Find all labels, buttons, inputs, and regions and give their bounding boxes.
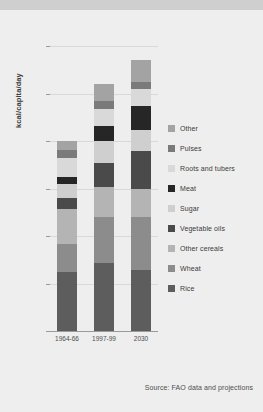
bar-segment-meat — [94, 126, 114, 141]
bar-segment-meat — [131, 106, 151, 130]
legend-item-label: Wheat — [180, 265, 201, 272]
y-tick-mark — [46, 46, 50, 47]
legend-item-label: Roots and tubers — [180, 165, 235, 172]
chart-legend: OtherPulsesRoots and tubersMeatSugarVege… — [168, 118, 260, 298]
bar-segment-other — [131, 60, 151, 82]
bar-segment-wheat — [131, 217, 151, 270]
legend-swatch-icon — [168, 165, 175, 172]
chart-figure: kcal/capita/day 05001 0001 5002 0002 500… — [0, 10, 263, 412]
legend-swatch-icon — [168, 145, 175, 152]
bar-segment-wheat — [57, 244, 77, 273]
legend-swatch-icon — [168, 245, 175, 252]
legend-item-meat[interactable]: Meat — [168, 178, 260, 198]
bar-2030 — [131, 60, 151, 331]
bar-segment-roots-and-tubers — [94, 109, 114, 126]
bar-segment-pulses — [131, 82, 151, 89]
bar-segment-other-cereals — [94, 187, 114, 217]
plot-area: 05001 0001 5002 0002 5003 0001964-661997… — [50, 46, 158, 331]
bar-segment-pulses — [94, 101, 114, 109]
bar-segment-roots-and-tubers — [57, 158, 77, 177]
legend-item-label: Sugar — [180, 205, 199, 212]
legend-item-rice[interactable]: Rice — [168, 278, 260, 298]
y-tick-mark — [46, 236, 50, 237]
y-tick-mark — [46, 189, 50, 190]
legend-item-vegetable-oils[interactable]: Vegetable oils — [168, 218, 260, 238]
bar-1964-66 — [57, 141, 77, 331]
bar-segment-roots-and-tubers — [131, 89, 151, 106]
bar-segment-sugar — [131, 130, 151, 152]
bar-segment-vegetable-oils — [57, 198, 77, 209]
bar-segment-rice — [57, 272, 77, 331]
legend-item-label: Meat — [180, 185, 196, 192]
gridline — [50, 46, 158, 47]
bar-segment-wheat — [94, 217, 114, 263]
axis-baseline — [50, 331, 158, 332]
y-tick-mark — [46, 284, 50, 285]
bar-segment-rice — [94, 263, 114, 331]
legend-swatch-icon — [168, 205, 175, 212]
bar-segment-other — [57, 141, 77, 150]
bar-segment-other-cereals — [57, 209, 77, 243]
y-tick-mark — [46, 141, 50, 142]
y-tick-mark — [46, 94, 50, 95]
legend-item-label: Other cereals — [180, 245, 223, 252]
legend-swatch-icon — [168, 125, 175, 132]
bar-1997-99 — [94, 84, 114, 331]
bar-segment-other — [94, 84, 114, 101]
bar-segment-other-cereals — [131, 189, 151, 217]
legend-item-label: Rice — [180, 285, 194, 292]
legend-swatch-icon — [168, 285, 175, 292]
legend-item-label: Other — [180, 125, 198, 132]
legend-item-pulses[interactable]: Pulses — [168, 138, 260, 158]
legend-item-roots-and-tubers[interactable]: Roots and tubers — [168, 158, 260, 178]
bar-segment-meat — [57, 177, 77, 184]
bar-segment-pulses — [57, 150, 77, 159]
bar-segment-vegetable-oils — [94, 163, 114, 187]
legend-item-label: Pulses — [180, 145, 202, 152]
bar-segment-sugar — [94, 141, 114, 163]
legend-item-other-cereals[interactable]: Other cereals — [168, 238, 260, 258]
legend-swatch-icon — [168, 225, 175, 232]
bar-segment-vegetable-oils — [131, 151, 151, 189]
top-decorative-band — [0, 0, 263, 10]
legend-swatch-icon — [168, 265, 175, 272]
source-note: Source: FAO data and projections — [145, 384, 253, 391]
y-axis-title: kcal/capita/day — [14, 73, 23, 128]
bar-segment-sugar — [57, 184, 77, 198]
y-tick-mark — [46, 331, 50, 332]
legend-item-wheat[interactable]: Wheat — [168, 258, 260, 278]
legend-item-other[interactable]: Other — [168, 118, 260, 138]
bar-segment-rice — [131, 270, 151, 331]
legend-item-label: Vegetable oils — [180, 225, 225, 232]
x-tick-label: 2030 — [113, 335, 169, 342]
legend-swatch-icon — [168, 185, 175, 192]
legend-item-sugar[interactable]: Sugar — [168, 198, 260, 218]
